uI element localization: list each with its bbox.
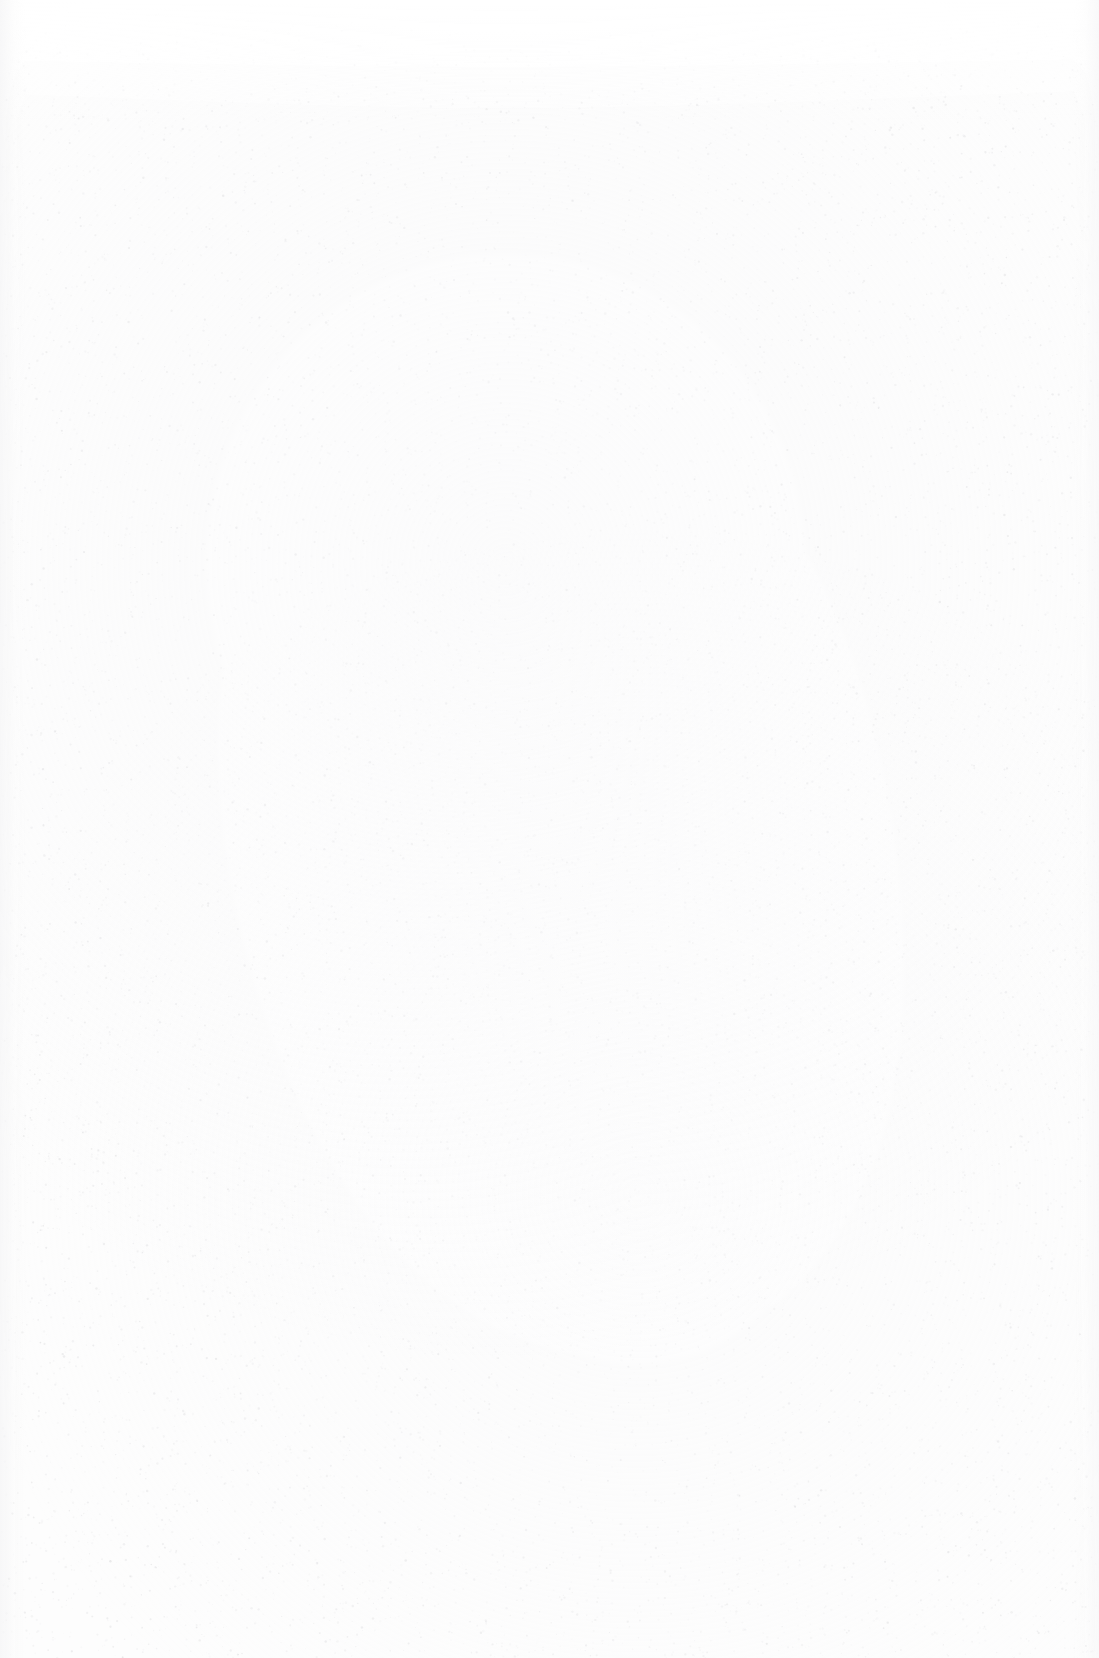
paper-grain-texture xyxy=(0,0,1099,1658)
scanned-page xyxy=(0,0,1099,1658)
